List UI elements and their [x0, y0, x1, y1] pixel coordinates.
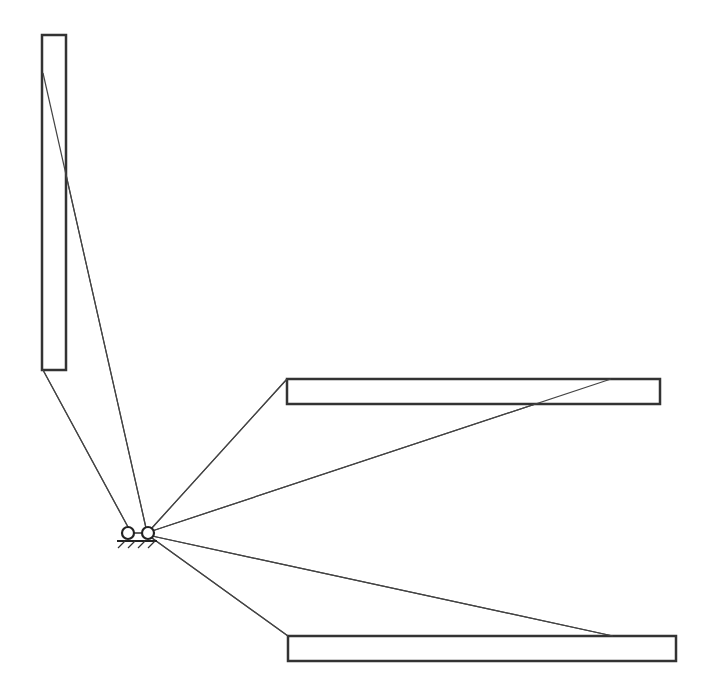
- upper-horizontal-bar: [287, 379, 660, 404]
- links-group: [43, 73, 613, 636]
- left-pivot-icon: [122, 527, 134, 539]
- link-lower-left-overlay: [152, 538, 288, 636]
- lower-horizontal-bar: [288, 636, 676, 661]
- mechanism-diagram: [0, 0, 703, 691]
- ground-support: [117, 541, 157, 548]
- bars-group: [42, 35, 676, 661]
- link-upper-left-overlay: [151, 379, 287, 529]
- right-pivot-icon: [142, 527, 154, 539]
- link-lower-right-overlay: [152, 536, 613, 636]
